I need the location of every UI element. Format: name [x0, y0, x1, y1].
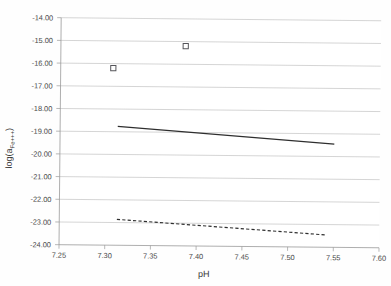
y-tick-label: -16.00 — [32, 59, 53, 68]
data-point-marker — [111, 65, 116, 70]
y-tick-label: -21.00 — [31, 172, 52, 181]
chart-skew-wrapper: -14.00 -15.00 -16.00 -17.00 -18.00 -19.0… — [0, 0, 391, 286]
y-tick-label: -15.00 — [32, 36, 53, 45]
x-tick-label: 7.45 — [235, 252, 249, 261]
x-tick-label: 7.55 — [326, 253, 340, 262]
x-tick-label: 7.40 — [189, 252, 203, 261]
y-tick-label: -24.00 — [30, 240, 51, 249]
x-tick-label: 7.35 — [143, 252, 157, 261]
x-tick-label: 7.30 — [97, 251, 111, 260]
y-axis-title-base: log(a — [4, 148, 14, 168]
y-tick-label: -18.00 — [31, 104, 52, 113]
y-tick-label: -19.00 — [31, 127, 52, 136]
chart-figure: -14.00 -15.00 -16.00 -17.00 -18.00 -19.0… — [0, 0, 391, 286]
x-tick-label: 7.50 — [280, 253, 294, 262]
y-tick-label: -22.00 — [30, 195, 51, 204]
y-axis-title-subscript: Fe+++ — [9, 130, 15, 148]
y-tick-label: -20.00 — [31, 149, 52, 158]
x-axis-title: pH — [198, 269, 210, 279]
svg-text:log(aFe+++): log(aFe+++) — [4, 128, 16, 169]
y-axis-tick-labels: -14.00 -15.00 -16.00 -17.00 -18.00 -19.0… — [30, 13, 53, 249]
x-tick-label: 7.60 — [372, 254, 386, 263]
x-axis-tick-labels: 7.25 7.30 7.35 7.40 7.45 7.50 7.55 7.60 — [52, 251, 386, 263]
chart-canvas: -14.00 -15.00 -16.00 -17.00 -18.00 -19.0… — [0, 0, 391, 286]
x-tick-label: 7.25 — [52, 251, 66, 260]
y-axis-title-close: ) — [4, 128, 14, 131]
data-point-marker — [183, 43, 188, 48]
y-axis-title: log(aFe+++) — [4, 128, 16, 169]
y-tick-label: -17.00 — [32, 81, 53, 90]
y-tick-label: -14.00 — [32, 13, 53, 22]
y-tick-label: -23.00 — [30, 218, 51, 227]
